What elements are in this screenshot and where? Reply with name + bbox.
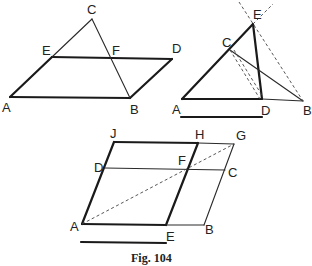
fig1-label-C: C: [87, 2, 96, 17]
fig3-line-HG: [198, 143, 234, 144]
fig1-line-EC: [52, 19, 92, 57]
fig3-line-AE: [82, 224, 166, 225]
fig2-line-AE: [182, 24, 253, 99]
fig3-label-D: D: [94, 160, 103, 175]
fig3-label-H: H: [195, 127, 204, 142]
fig3-label-F: F: [178, 153, 186, 168]
fig2-label-B: B: [303, 103, 312, 118]
fig2-label-C: C: [222, 35, 231, 50]
fig3-label-A: A: [70, 219, 79, 234]
fig2-line-CB: [230, 50, 303, 101]
fig2-dashed-CD-1: [230, 50, 260, 99]
fig1-label-D: D: [172, 41, 181, 56]
fig2-label-E: E: [253, 7, 262, 22]
fig1-label-A: A: [2, 100, 11, 115]
fig1-line-AE: [10, 57, 52, 97]
fig3-label-C: C: [228, 165, 237, 180]
fig1-label-E: E: [42, 43, 51, 58]
fig2-label-D: D: [261, 103, 270, 118]
fig3-label-G: G: [236, 128, 246, 143]
fig3-line-DC: [105, 168, 225, 170]
fig3-line-BG: [204, 144, 234, 225]
fig1-line-AB: [10, 97, 130, 98]
figure-caption: Fig. 104: [131, 251, 172, 265]
diagram-canvas: A B C D E F A B C D E A B C: [0, 0, 312, 266]
fig3-reference-segment: [81, 242, 166, 243]
figure-1: A B C D E F: [2, 2, 181, 117]
figure-2: A B C D E: [172, 2, 312, 118]
fig3-label-B: B: [205, 222, 214, 237]
fig3-label-E: E: [166, 229, 175, 244]
fig1-line-BD: [130, 59, 172, 98]
fig3-line-JH: [114, 142, 198, 143]
figure-3: A B C D E F G H J: [70, 126, 246, 244]
fig1-label-B: B: [130, 102, 139, 117]
fig2-label-A: A: [172, 102, 181, 117]
fig2-line-DB: [262, 99, 303, 101]
fig3-line-AJ: [82, 142, 114, 224]
fig3-dashed-AG: [82, 144, 234, 224]
fig1-label-F: F: [112, 43, 120, 58]
fig3-label-J: J: [110, 126, 117, 141]
fig2-dashed-EB: [239, 2, 303, 101]
